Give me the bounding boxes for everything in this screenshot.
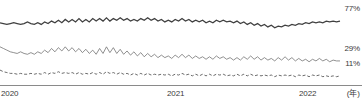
series-end-label-77: 77% [345, 4, 360, 13]
series-end-label-29: 29% [345, 44, 360, 53]
chart-plot-area [0, 0, 362, 103]
series-line-11 [0, 70, 340, 77]
series-end-label-11: 11% [345, 59, 360, 68]
line-chart: 77% 29% 11% 2020 2021 2022 (年) [0, 0, 362, 103]
series-line-29 [0, 47, 340, 62]
series-group [0, 18, 340, 77]
x-tick-label-2022: 2022 [299, 89, 316, 98]
x-tick-label-2021: 2021 [167, 89, 184, 98]
series-line-77 [0, 18, 340, 28]
x-tick-label-2020: 2020 [1, 89, 18, 98]
x-axis-unit-label: (年) [347, 89, 360, 98]
